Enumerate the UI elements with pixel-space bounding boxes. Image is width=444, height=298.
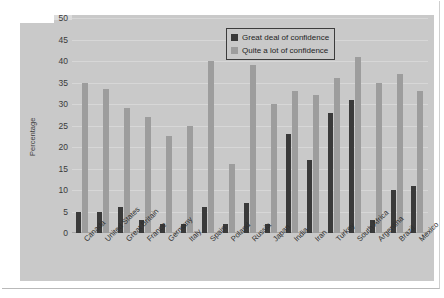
bar-group [114, 18, 135, 233]
bar-great-deal [202, 207, 207, 233]
x-axis-label-slot: Iran [302, 236, 323, 294]
x-axis-category-labels: CanadaUnited StatesGreat BritainFranceGe… [72, 236, 428, 294]
bar-quite-a-lot [334, 78, 340, 233]
bar-group [198, 18, 219, 233]
bar-great-deal [349, 100, 354, 233]
dark-swatch-icon [231, 34, 238, 41]
bar-great-deal [286, 134, 291, 233]
bar-quite-a-lot [82, 83, 88, 234]
y-axis-tick-label: 45 [59, 35, 68, 45]
bar-great-deal [328, 113, 333, 233]
x-axis-label-slot: Germany [156, 236, 177, 294]
bar-group [344, 18, 365, 233]
x-axis-label-slot: Spain [198, 236, 219, 294]
y-axis-tick-label: 50 [59, 13, 68, 23]
bar-group [72, 18, 93, 233]
bar-group [156, 18, 177, 233]
chart-legend: Great deal of confidence Quite a lot of … [226, 28, 335, 60]
x-axis-label-slot: Canada [72, 236, 93, 294]
bar-group [386, 18, 407, 233]
y-axis-title: Percentage [28, 118, 37, 156]
x-axis-label-slot: Russia [240, 236, 261, 294]
bar-group [407, 18, 428, 233]
x-axis-label-slot: South Africa [344, 236, 365, 294]
y-axis-tick-label: 35 [59, 78, 68, 88]
legend-label: Quite a lot of confidence [242, 46, 328, 55]
bar-quite-a-lot [166, 136, 172, 233]
bar-quite-a-lot [355, 57, 361, 233]
x-axis-label-slot: France [135, 236, 156, 294]
y-axis-tick-label: 30 [59, 99, 68, 109]
x-axis-label-slot: United States [93, 236, 114, 294]
bar-group [135, 18, 156, 233]
x-axis-label-slot: Japan [260, 236, 281, 294]
legend-label: Great deal of confidence [242, 33, 329, 42]
bar-quite-a-lot [397, 74, 403, 233]
bar-quite-a-lot [417, 91, 423, 233]
bar-group [365, 18, 386, 233]
y-axis-tick-label: 5 [63, 207, 68, 217]
x-axis-label-slot: India [281, 236, 302, 294]
x-axis-label-slot: Poland [219, 236, 240, 294]
y-axis-tick-label: 25 [59, 121, 68, 131]
x-axis-label-slot: Mexico [407, 236, 428, 294]
bar-quite-a-lot [208, 61, 214, 233]
bar-great-deal [76, 212, 81, 234]
bar-great-deal [307, 160, 312, 233]
bar-group [177, 18, 198, 233]
bar-quite-a-lot [271, 104, 277, 233]
x-axis-label-slot: Argentina [365, 236, 386, 294]
y-axis-tick-label: 40 [59, 56, 68, 66]
legend-item-great-deal: Great deal of confidence [231, 32, 329, 43]
bar-quite-a-lot [292, 91, 298, 233]
chart-screenshot: Percentage 05101520253035404550 CanadaUn… [0, 0, 444, 298]
light-swatch-icon [231, 47, 238, 54]
y-axis-tick-labels: 05101520253035404550 [46, 18, 68, 233]
y-axis-tick-label: 10 [59, 185, 68, 195]
bar-group [93, 18, 114, 233]
y-axis-tick-label: 15 [59, 164, 68, 174]
bar-quite-a-lot [250, 65, 256, 233]
y-axis-tick-label: 20 [59, 142, 68, 152]
bar-quite-a-lot [103, 89, 109, 233]
bar-quite-a-lot [313, 95, 319, 233]
x-axis-label-slot: Italy [177, 236, 198, 294]
y-axis-title-wrapper: Percentage [34, 60, 46, 180]
x-axis-label-slot: Great Britain [114, 236, 135, 294]
y-axis-tick-label: 0 [63, 228, 68, 238]
x-axis-label-slot: Brazil [386, 236, 407, 294]
legend-item-quite-a-lot: Quite a lot of confidence [231, 45, 329, 56]
bar-quite-a-lot [229, 164, 235, 233]
x-axis-label-slot: Turkey [323, 236, 344, 294]
